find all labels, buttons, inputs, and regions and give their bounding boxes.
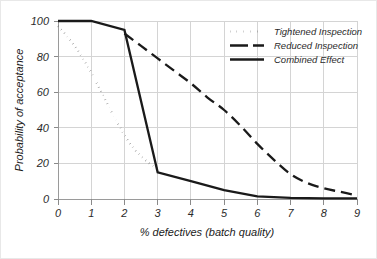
x-tick-label-9: 9 xyxy=(354,207,360,219)
x-tick-label-8: 8 xyxy=(321,207,328,219)
chart-legend: Tightened Inspection Reduced Inspection … xyxy=(230,26,362,65)
y-tick-label-20: 20 xyxy=(36,157,50,169)
y-axis-tick-labels: 100 80 60 40 20 0 xyxy=(31,15,50,205)
x-axis-title: % defectives (batch quality) xyxy=(140,226,275,238)
x-tick-label-1: 1 xyxy=(88,207,94,219)
y-tick-label-40: 40 xyxy=(37,122,50,134)
x-axis-tick-labels: 0 1 2 3 4 5 6 7 8 9 xyxy=(55,207,360,219)
chart-container: 100 80 60 40 20 0 0 1 2 3 4 5 6 7 8 9 % … xyxy=(0,0,377,259)
x-axis-tickmarks xyxy=(58,199,357,205)
y-tick-label-80: 80 xyxy=(37,51,50,63)
x-tick-label-6: 6 xyxy=(254,207,261,219)
x-tick-label-7: 7 xyxy=(288,207,295,219)
y-tick-label-0: 0 xyxy=(43,193,50,205)
x-tick-label-3: 3 xyxy=(155,207,162,219)
legend-label-reduced-inspection: Reduced Inspection xyxy=(274,40,358,51)
x-tick-label-2: 2 xyxy=(120,207,127,219)
legend-label-tightened-inspection: Tightened Inspection xyxy=(274,26,362,37)
y-tick-label-100: 100 xyxy=(31,15,50,27)
y-tick-label-60: 60 xyxy=(37,86,50,98)
x-tick-label-4: 4 xyxy=(188,207,194,219)
x-tick-label-5: 5 xyxy=(221,207,228,219)
legend-label-combined-effect: Combined Effect xyxy=(274,54,345,65)
chart-plot-svg: 100 80 60 40 20 0 0 1 2 3 4 5 6 7 8 9 % … xyxy=(1,1,377,259)
y-axis-title: Probability of acceptance xyxy=(13,49,25,172)
x-tick-label-0: 0 xyxy=(55,207,62,219)
y-axis-tickmarks xyxy=(54,21,58,199)
